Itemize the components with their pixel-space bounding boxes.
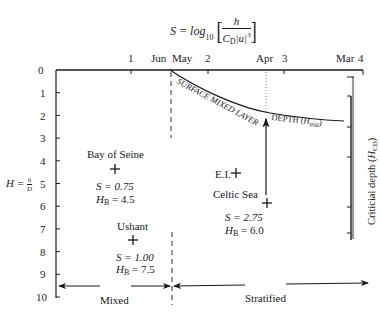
top-tick-3: 3 <box>282 52 288 64</box>
site-bay-of-seine-name: Bay of Seine <box>87 148 144 160</box>
y-tick-10: 10 <box>36 291 47 303</box>
y-tick-9: 9 <box>40 268 46 280</box>
region-stratified-label: Stratified <box>245 292 286 304</box>
y-tick-6: 6 <box>40 200 46 212</box>
site-celtic-sea-s: S = 2.75 <box>225 211 263 223</box>
month-jun: Jun <box>151 52 166 64</box>
site-celtic-sea-hb: HB = 6.0 <box>225 224 264 240</box>
top-tick-2: 2 <box>205 52 211 64</box>
y-tick-8: 8 <box>40 246 46 258</box>
top-tick-4: 4 <box>358 52 364 64</box>
site-ei-name: E.I. <box>215 168 231 180</box>
y-tick-3: 3 <box>40 132 46 144</box>
site-ushant-s: S = 1.00 <box>116 251 154 263</box>
month-mar: Mar <box>336 52 354 64</box>
site-ushant-hb: HB = 7.5 <box>116 263 155 279</box>
y-tick-4: 4 <box>40 155 46 167</box>
stratification-formula: S = log10 [ h CD|u|3 ] <box>170 15 257 48</box>
y-axis-label: H = hD <box>6 176 32 193</box>
y-tick-1: 1 <box>40 87 46 99</box>
month-apr: Apr <box>256 52 273 64</box>
site-bay-of-seine-s: S = 0.75 <box>96 180 134 192</box>
y-tick-5: 5 <box>40 178 46 190</box>
y-tick-0: 0 <box>38 64 44 76</box>
regime-arrows <box>59 283 368 286</box>
site-ushant-name: Ushant <box>117 220 148 232</box>
month-may: May <box>172 52 192 64</box>
critical-depth-label: Criticial depth (HCD) <box>366 138 379 225</box>
y-tick-7: 7 <box>40 223 46 235</box>
region-mixed-label: Mixed <box>100 294 129 306</box>
y-tick-2: 2 <box>40 110 46 122</box>
site-bay-of-seine-hb: HB = 4.5 <box>96 193 135 209</box>
site-celtic-sea-name: Celtic Sea <box>213 188 258 200</box>
top-tick-1: 1 <box>128 52 134 64</box>
